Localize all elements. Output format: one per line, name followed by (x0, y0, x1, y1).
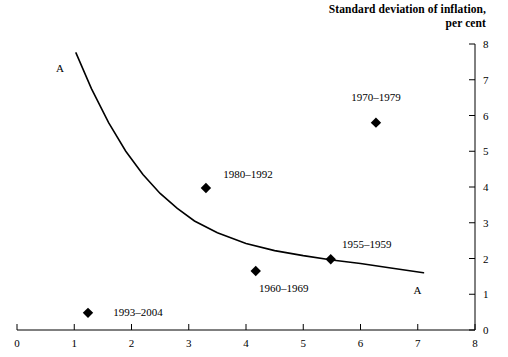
x-axis-ticks (17, 324, 475, 330)
marker-1970–1979 (371, 117, 381, 127)
x-tick-label-5: 5 (301, 338, 307, 349)
y-tick-label-8: 8 (483, 39, 489, 50)
axis-lines (17, 44, 475, 330)
marker-1980–1992 (201, 183, 211, 193)
point-label-1970–1979: 1970–1979 (351, 91, 401, 102)
marker-1960–1969 (251, 266, 261, 276)
marker-1955–1959 (326, 254, 336, 264)
chart-container: Standard deviation of inflation, per cen… (0, 0, 508, 357)
curve-label-right: A (413, 284, 421, 295)
y-tick-label-3: 3 (483, 217, 489, 228)
y-tick-label-6: 6 (483, 110, 489, 121)
curve-label-left: A (56, 62, 64, 73)
x-tick-label-8: 8 (472, 338, 478, 349)
marker-1993–2004 (83, 308, 93, 318)
x-tick-label-3: 3 (186, 338, 192, 349)
y-tick-label-7: 7 (483, 74, 489, 85)
y-tick-label-2: 2 (483, 253, 489, 264)
x-tick-label-4: 4 (243, 338, 249, 349)
y-axis-ticks (469, 44, 475, 330)
y-tick-label-0: 0 (483, 325, 489, 336)
y-tick-label-4: 4 (483, 182, 489, 193)
x-tick-label-1: 1 (72, 338, 78, 349)
point-label-1960–1969: 1960–1969 (259, 283, 309, 294)
point-label-1993–2004: 1993–2004 (113, 306, 163, 317)
point-label-1955–1959: 1955–1959 (342, 239, 392, 250)
x-tick-label-7: 7 (415, 338, 421, 349)
x-tick-label-6: 6 (358, 338, 364, 349)
data-point-markers (83, 117, 381, 318)
y-tick-label-5: 5 (483, 146, 489, 157)
x-tick-label-0: 0 (14, 338, 20, 349)
point-label-1980–1992: 1980–1992 (223, 169, 273, 180)
y-tick-label-1: 1 (483, 289, 489, 300)
x-tick-label-2: 2 (129, 338, 135, 349)
